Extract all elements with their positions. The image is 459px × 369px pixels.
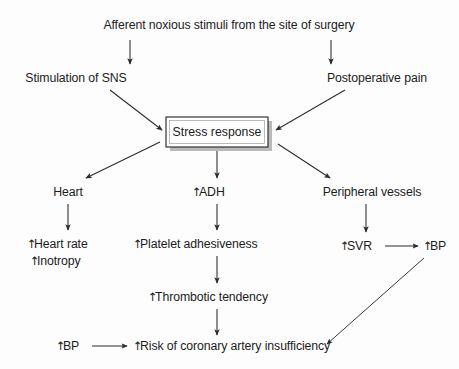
node-bp-bottom: ↑ BP	[56, 339, 79, 353]
node-postoperative-pain: Postoperative pain	[327, 71, 427, 85]
flowchart-diagram: Afferent noxious stimuli from the site o…	[0, 0, 459, 369]
stress-response-label: Stress response	[173, 125, 262, 139]
edge-postoperative-pain-to-stress-response	[276, 90, 345, 130]
node-bp-bottom-label: BP	[63, 339, 79, 353]
node-bp-right: ↑ BP	[423, 239, 446, 253]
node-svr: ↑ SVR	[340, 239, 372, 253]
node-thrombotic-tendency-label: Thrombotic tendency	[155, 290, 269, 304]
node-inotropy: ↑ Inotropy	[30, 254, 82, 268]
node-peripheral-vessels: Peripheral vessels	[323, 185, 422, 199]
node-adh: ↑ ADH	[192, 185, 225, 199]
edge-stress-response-to-heart	[86, 142, 160, 178]
edge-bp-right-to-risk-coronary	[327, 258, 424, 344]
node-platelet-adhesiveness: ↑ Platelet adhesiveness	[133, 237, 258, 251]
node-heart-rate: ↑ Heart rate	[27, 237, 88, 251]
node-adh-label: ADH	[199, 185, 225, 199]
flowchart-canvas: Afferent noxious stimuli from the site o…	[0, 0, 459, 369]
node-thrombotic-tendency: ↑ Thrombotic tendency	[148, 290, 269, 304]
node-inotropy-label: Inotropy	[37, 254, 82, 268]
node-heart-rate-label: Heart rate	[34, 237, 88, 251]
node-heart: Heart	[53, 185, 83, 199]
node-svr-label: SVR	[347, 239, 372, 253]
node-stimulation-of-sns: Stimulation of SNS	[25, 71, 126, 85]
edge-stimulation-sns-to-stress-response	[110, 90, 162, 130]
edge-stress-response-to-peripheral-vessels	[278, 144, 330, 178]
node-risk-coronary-label: Risk of coronary artery insufficiency	[140, 339, 331, 353]
node-afferent-noxious-stimuli: Afferent noxious stimuli from the site o…	[103, 18, 355, 32]
node-platelet-adhesiveness-label: Platelet adhesiveness	[140, 237, 258, 251]
node-risk-coronary: ↑ Risk of coronary artery insufficiency	[133, 339, 331, 353]
node-bp-right-label: BP	[430, 239, 446, 253]
